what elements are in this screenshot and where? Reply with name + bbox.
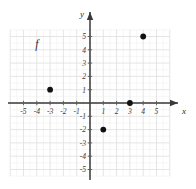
- data-point: [140, 34, 146, 40]
- x-tick-label-neg2: -2: [60, 107, 67, 116]
- data-point: [100, 127, 106, 133]
- y-tick-label-5: 5: [82, 32, 86, 41]
- y-tick-label-neg2: -2: [80, 125, 87, 134]
- y-tick-label-4: 4: [82, 46, 86, 55]
- x-tick-label-1: 1: [101, 107, 105, 116]
- x-tick-label-neg3: -3: [47, 107, 54, 116]
- y-tick-label-3: 3: [81, 59, 86, 68]
- x-tick-label-neg5: -5: [20, 107, 27, 116]
- coordinate-plane-svg: -5-4-3-2-11234554321-1-2-3-4-5 x y f: [0, 0, 196, 189]
- y-tick-label-2: 2: [82, 72, 86, 81]
- plot-background: [0, 0, 196, 189]
- data-point: [127, 100, 133, 106]
- y-axis-label: y: [79, 9, 84, 19]
- y-tick-label-1: 1: [82, 86, 86, 95]
- coordinate-plane-figure: -5-4-3-2-11234554321-1-2-3-4-5 x y f: [0, 0, 196, 189]
- y-tick-label-neg4: -4: [80, 152, 87, 161]
- y-tick-label-neg1: -1: [80, 112, 86, 121]
- y-tick-label-neg5: -5: [80, 165, 87, 174]
- data-point: [47, 87, 53, 93]
- y-tick-label-neg3: -3: [80, 139, 87, 148]
- x-tick-label-neg4: -4: [34, 107, 41, 116]
- x-tick-label-2: 2: [115, 107, 119, 116]
- x-tick-label-5: 5: [155, 107, 159, 116]
- x-axis-label: x: [181, 106, 186, 116]
- x-tick-label-3: 3: [127, 107, 132, 116]
- x-tick-label-4: 4: [141, 107, 145, 116]
